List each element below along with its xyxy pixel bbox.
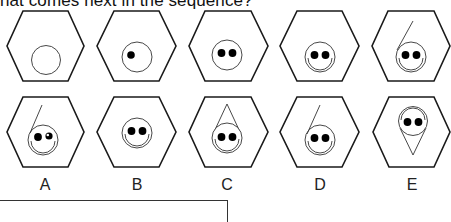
option-b-figure[interactable] bbox=[97, 97, 176, 167]
option-d-label[interactable]: D bbox=[310, 176, 330, 194]
answer-box[interactable] bbox=[0, 200, 228, 222]
option-a-figure[interactable] bbox=[7, 97, 84, 167]
option-e-label[interactable]: E bbox=[402, 176, 422, 194]
sequence-item-3 bbox=[189, 11, 268, 81]
sequence-item-1 bbox=[7, 11, 84, 81]
option-b-label[interactable]: B bbox=[127, 176, 147, 194]
option-c-label[interactable]: C bbox=[217, 176, 237, 194]
option-a-label[interactable]: A bbox=[35, 176, 55, 194]
sequence-item-2 bbox=[97, 11, 176, 81]
option-e-figure[interactable] bbox=[373, 97, 450, 167]
option-d-figure[interactable] bbox=[280, 97, 359, 167]
option-c-figure[interactable] bbox=[189, 97, 268, 167]
sequence-item-5 bbox=[372, 11, 450, 81]
sequence-item-4 bbox=[280, 11, 359, 81]
